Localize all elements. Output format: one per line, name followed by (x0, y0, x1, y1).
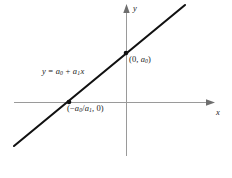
equation-label: y = a0 + a1x (42, 67, 84, 76)
point-x-numerator-subscript: 0 (79, 107, 82, 113)
equation-plus: + (63, 66, 73, 76)
x-axis-label: x (216, 108, 220, 117)
equation-equals: = (46, 66, 56, 76)
equation-variable: x (80, 66, 84, 76)
equation-intercept-subscript: 0 (60, 70, 63, 76)
equation-slope-subscript: 1 (77, 70, 80, 76)
y-axis-arrowhead (123, 4, 129, 13)
point-y-open-paren: (0, (129, 54, 141, 64)
point-marker-y-intercept (124, 51, 129, 56)
point-x-close-paren: , 0) (92, 103, 104, 113)
point-label-y-intercept: (0, a0) (129, 55, 151, 64)
figure-canvas (0, 0, 232, 178)
point-x-denominator-subscript: 1 (89, 107, 92, 113)
y-axis-label: y (133, 4, 137, 13)
point-x-open-paren: (− (67, 103, 75, 113)
linear-function-figure: y x y = a0 + a1x (0, a0) (−a0/a1, 0) (0, 0, 232, 178)
point-y-coord-subscript: 0 (145, 58, 148, 64)
x-axis-arrowhead (206, 99, 215, 105)
linear-function-line (14, 5, 185, 146)
point-y-close-paren: ) (148, 54, 151, 64)
point-label-x-intercept: (−a0/a1, 0) (67, 104, 104, 113)
